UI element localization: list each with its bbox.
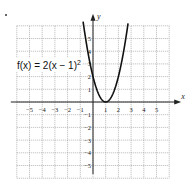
y-tick-label: −2	[84, 124, 91, 131]
function-label: f(x) = 2(x − 1)2	[17, 59, 81, 71]
y-tick-label: 1	[88, 86, 91, 93]
y-axis-arrow-icon	[91, 14, 96, 21]
y-axis-label: y	[96, 12, 101, 21]
y-tick-label: −4	[84, 149, 92, 156]
x-tick-label: −1	[77, 106, 84, 113]
x-tick-label: −2	[64, 106, 71, 113]
x-tick-label: 2	[117, 106, 120, 113]
x-tick-label: −5	[26, 106, 33, 113]
x-axis-label: x	[180, 92, 185, 101]
y-tick-label: −3	[84, 137, 91, 144]
x-tick-label: 1	[104, 106, 107, 113]
y-tick-label: 2	[88, 73, 91, 80]
y-tick-label: −5	[84, 162, 91, 169]
x-tick-label: 3	[129, 106, 132, 113]
y-tick-label: 5	[88, 35, 91, 42]
function-graph: xy−5−4−3−2−112345−5−4−3−2−112345f(x) = 2…	[0, 0, 187, 194]
y-tick-label: −1	[84, 111, 91, 118]
x-tick-label: −3	[51, 106, 58, 113]
x-tick-label: 4	[142, 106, 146, 113]
x-tick-label: 5	[155, 106, 158, 113]
x-tick-label: −4	[39, 106, 47, 113]
x-axis-arrow-icon	[174, 100, 181, 105]
